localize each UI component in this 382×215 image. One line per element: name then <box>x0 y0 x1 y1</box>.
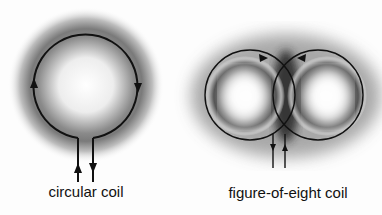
circular-coil-label: circular coil <box>48 183 123 200</box>
figure-eight-coil-label: figure-of-eight coil <box>228 184 347 201</box>
coil-diagram: circular coil figure-of-eight coil <box>0 0 382 215</box>
figure-eight-field <box>191 34 381 158</box>
